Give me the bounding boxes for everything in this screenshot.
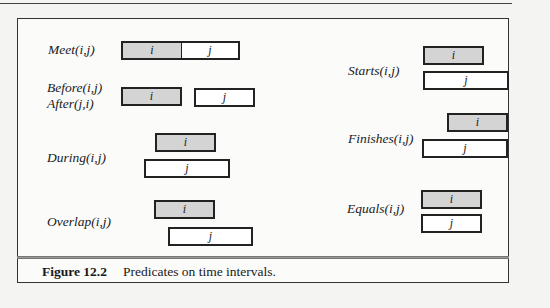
meet-interval-i: i [121, 41, 182, 60]
finishes-label: Finishes(i,j) [348, 131, 414, 147]
before-interval-i: i [121, 87, 182, 106]
figure-caption: Figure 12.2Predicates on time intervals. [42, 264, 276, 280]
after-label: After(j,i) [47, 96, 94, 112]
caption-text: Predicates on time intervals. [123, 264, 276, 279]
overlap-interval-i: i [154, 200, 215, 219]
before-interval-j: j [194, 88, 255, 107]
equals-interval-i: i [421, 190, 482, 209]
equals-label: Equals(i,j) [347, 201, 404, 217]
overlap-label: Overlap(i,j) [47, 214, 111, 230]
during-label: During(i,j) [47, 150, 106, 166]
starts-label: Starts(i,j) [348, 63, 399, 79]
during-interval-j: j [144, 159, 230, 178]
finishes-interval-i: i [447, 113, 508, 132]
meet-label: Meet(i,j) [48, 42, 95, 58]
before-label: Before(i,j) [47, 80, 102, 96]
page-top-rule [0, 3, 512, 4]
equals-interval-j: j [421, 214, 482, 233]
starts-interval-j: j [423, 71, 509, 90]
during-interval-i: i [155, 133, 216, 152]
starts-interval-i: i [423, 46, 484, 65]
overlap-interval-j: j [168, 227, 253, 246]
finishes-interval-j: j [422, 139, 508, 158]
meet-interval-j: j [181, 41, 240, 60]
caption-number: Figure 12.2 [42, 264, 107, 279]
caption-divider [17, 256, 509, 259]
